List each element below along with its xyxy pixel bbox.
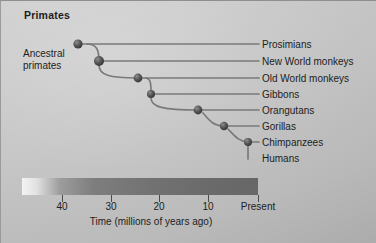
tip-label-gibbons: Gibbons bbox=[262, 89, 299, 100]
node-catarrhine-split bbox=[134, 74, 143, 83]
tip-label-old-world-monkeys: Old World monkeys bbox=[262, 73, 349, 84]
branch-hominoid-to-great-ape bbox=[151, 98, 198, 110]
tip-label-chimpanzees: Chimpanzees bbox=[262, 137, 323, 148]
time-axis-gradient-bar bbox=[22, 178, 258, 195]
node-hominoid-split bbox=[147, 90, 155, 98]
tick-label-40: 40 bbox=[56, 201, 67, 212]
tip-label-orangutans: Orangutans bbox=[262, 105, 314, 116]
node-anthropoid-split bbox=[94, 56, 104, 66]
tip-label-gorillas: Gorillas bbox=[262, 121, 296, 132]
branch-anthropoid-to-catarrhine bbox=[99, 65, 138, 78]
tip-label-new-world-monkeys: New World monkeys bbox=[262, 56, 354, 67]
tip-label-humans: Humans bbox=[262, 153, 299, 164]
tick-label-10: 10 bbox=[202, 201, 213, 212]
node-african-ape-split bbox=[220, 122, 228, 130]
tick-label-20: 20 bbox=[153, 201, 164, 212]
divergence-nodes bbox=[73, 39, 252, 146]
tip-label-prosimians: Prosimians bbox=[262, 39, 311, 50]
primate-phylogeny-figure: Primates Ancestral primates bbox=[0, 0, 376, 243]
node-chimp-human-split bbox=[244, 138, 252, 146]
axis-title: Time (millions of years ago) bbox=[1, 216, 301, 228]
tick-label-30: 30 bbox=[105, 201, 116, 212]
node-great-ape-split bbox=[194, 106, 203, 115]
tick-label-present: Present bbox=[241, 201, 275, 212]
node-primates-split bbox=[73, 39, 82, 48]
